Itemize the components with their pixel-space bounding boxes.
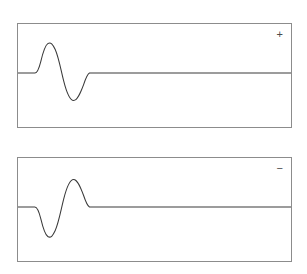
wavelet-path-positive	[18, 43, 291, 101]
wavelet-polarity-figure: + −	[0, 0, 307, 274]
negative-polarity-trace	[18, 158, 291, 261]
minus-sign-icon: −	[277, 163, 283, 174]
positive-polarity-trace	[18, 24, 291, 127]
wavelet-path-negative	[18, 180, 291, 238]
positive-polarity-panel: +	[17, 23, 292, 128]
plus-sign-icon: +	[277, 29, 283, 40]
negative-polarity-panel: −	[17, 157, 292, 262]
